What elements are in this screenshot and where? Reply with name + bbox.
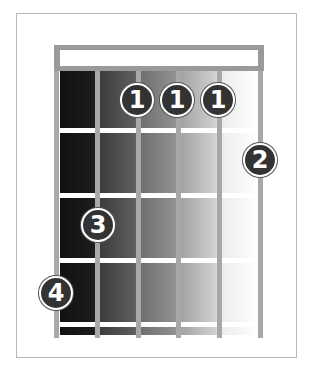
fret-line-2: [60, 193, 258, 198]
nut-inner: [60, 50, 258, 66]
fret-line-4: [60, 322, 258, 327]
finger-marker: 1: [201, 83, 235, 117]
finger-marker: 1: [160, 83, 194, 117]
finger-marker: 1: [120, 83, 154, 117]
fretboard: [54, 71, 264, 337]
finger-marker: 4: [39, 276, 73, 310]
finger-marker: 3: [81, 208, 115, 242]
finger-marker: 2: [243, 143, 277, 177]
nut: [54, 45, 264, 71]
fret-line-3: [60, 258, 258, 263]
fret-line-1: [60, 128, 258, 133]
string-6: [258, 71, 263, 338]
string-2: [95, 71, 100, 338]
